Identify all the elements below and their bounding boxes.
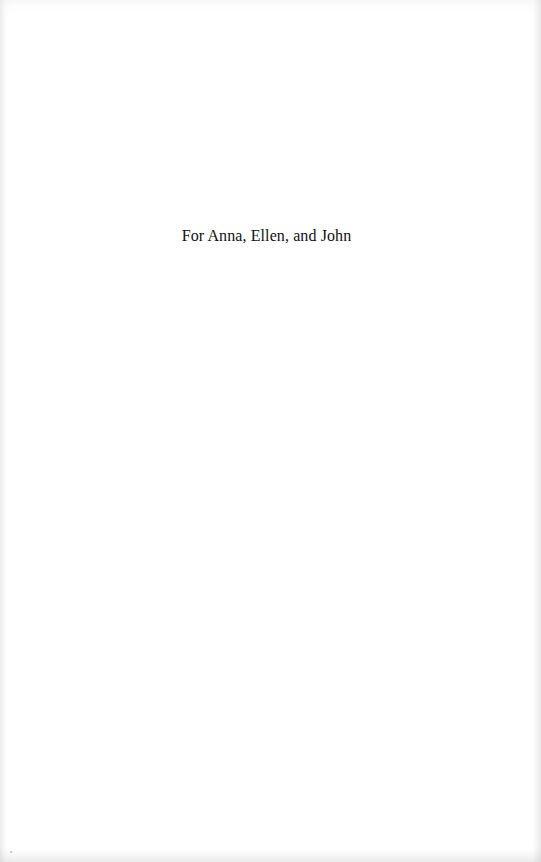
dedication-text: For Anna, Ellen, and John (0, 227, 533, 245)
page-edge-shadow-bottom (0, 848, 541, 862)
page-edge-shadow-right (533, 0, 541, 862)
book-page: For Anna, Ellen, and John (0, 0, 541, 862)
scan-speck (10, 851, 12, 853)
page-edge-shadow-left (0, 0, 6, 862)
